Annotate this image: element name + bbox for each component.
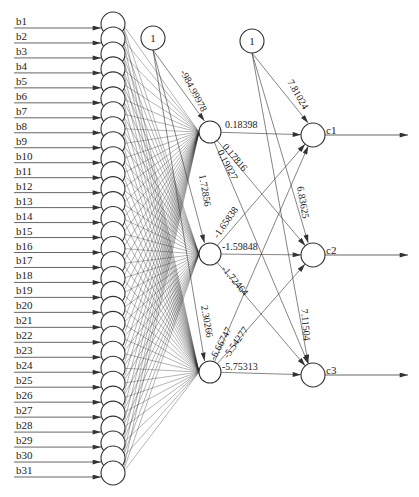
output-label-c3: c3 bbox=[326, 364, 337, 376]
output-label-c1: c1 bbox=[326, 124, 336, 136]
edge-b9-h1 bbox=[123, 132, 199, 144]
weight-label-bias-hidden-to-h2: 1.72856 bbox=[197, 173, 213, 207]
edge-b3-h1 bbox=[123, 54, 199, 132]
weight-label-h2-to-c3: -1.72464 bbox=[219, 263, 250, 298]
input-label-b26: b26 bbox=[16, 389, 33, 401]
hidden-node-h1 bbox=[199, 121, 221, 143]
input-layer: b1b2b3b4b5b6b7b8b9b10b11b12b13b14b15b16b… bbox=[14, 15, 101, 477]
input-label-b1: b1 bbox=[16, 15, 27, 27]
input-label-b14: b14 bbox=[16, 210, 33, 222]
input-label-b18: b18 bbox=[16, 269, 33, 281]
input-node-b31 bbox=[101, 461, 125, 485]
input-label-b22: b22 bbox=[16, 329, 33, 341]
edge-h1-c1 bbox=[221, 132, 301, 134]
input-label-b23: b23 bbox=[16, 344, 33, 356]
edge-b16-h2 bbox=[123, 249, 199, 255]
input-label-b11: b11 bbox=[16, 165, 32, 177]
input-label-b20: b20 bbox=[16, 299, 33, 311]
input-label-b6: b6 bbox=[16, 90, 28, 102]
input-label-b16: b16 bbox=[16, 240, 33, 252]
input-label-b25: b25 bbox=[16, 374, 33, 386]
weight-label-h2-to-c1: -1.65838 bbox=[211, 204, 241, 240]
weight-label-h1-to-c1: 0.18398 bbox=[225, 119, 258, 130]
input-label-b31: b31 bbox=[16, 464, 33, 476]
output-node-c3 bbox=[301, 363, 325, 387]
nodes: 11c1c2c3 bbox=[101, 12, 337, 485]
edge-bias-output-c2 bbox=[252, 53, 308, 243]
input-label-b5: b5 bbox=[16, 75, 28, 87]
input-label-b8: b8 bbox=[16, 120, 28, 132]
output-node-c2 bbox=[301, 243, 325, 267]
input-label-b9: b9 bbox=[16, 135, 28, 147]
input-label-b2: b2 bbox=[16, 30, 27, 42]
neural-network-diagram: b1b2b3b4b5b6b7b8b9b10b11b12b13b14b15b16b… bbox=[0, 0, 419, 497]
input-label-b28: b28 bbox=[16, 419, 33, 431]
bias-output-label: 1 bbox=[249, 35, 255, 47]
hidden-node-h3 bbox=[199, 361, 221, 383]
input-label-b3: b3 bbox=[16, 45, 28, 57]
input-label-b19: b19 bbox=[16, 284, 33, 296]
weight-label-h2-to-c2: -1.59848 bbox=[222, 241, 258, 252]
output-node-c1 bbox=[301, 123, 325, 147]
input-label-b21: b21 bbox=[16, 314, 33, 326]
edge-b25-h3 bbox=[123, 372, 199, 383]
edge-b16-h3 bbox=[123, 249, 199, 373]
input-label-b24: b24 bbox=[16, 359, 33, 371]
weight-label-bias-output-to-c1: 7.81024 bbox=[285, 78, 311, 112]
weight-label-h3-to-c3: -5.75313 bbox=[222, 361, 258, 372]
edge-h3-c3 bbox=[221, 372, 301, 374]
input-hidden-connections bbox=[123, 24, 199, 473]
input-label-b7: b7 bbox=[16, 105, 28, 117]
input-label-b15: b15 bbox=[16, 225, 33, 237]
edge-b29-h3 bbox=[123, 372, 199, 443]
output-label-c2: c2 bbox=[326, 244, 336, 256]
edge-b10-h1 bbox=[123, 132, 199, 159]
edge-b5-h1 bbox=[123, 84, 199, 132]
hidden-output-connections bbox=[153, 50, 408, 375]
weight-label-bias-hidden-to-h3: 2.30266 bbox=[199, 304, 215, 338]
input-label-b17: b17 bbox=[16, 254, 33, 266]
weight-label-bias-output-to-c2: 6.83625 bbox=[295, 185, 311, 219]
input-label-b29: b29 bbox=[16, 434, 33, 446]
edge-b22-h3 bbox=[123, 338, 199, 372]
edge-b28-h3 bbox=[123, 372, 199, 428]
input-label-b13: b13 bbox=[16, 195, 33, 207]
input-label-b12: b12 bbox=[16, 180, 33, 192]
input-label-b4: b4 bbox=[16, 60, 28, 72]
edge-b27-h3 bbox=[123, 372, 199, 413]
weight-label-bias-output-to-c3: 7.11504 bbox=[299, 308, 313, 341]
input-label-b27: b27 bbox=[16, 404, 33, 416]
hidden-node-h2 bbox=[199, 243, 221, 265]
input-label-b30: b30 bbox=[16, 449, 33, 461]
edge-b10-h2 bbox=[123, 159, 199, 254]
edge-b27-h1 bbox=[123, 132, 199, 413]
input-label-b10: b10 bbox=[16, 150, 33, 162]
edge-b31-h1 bbox=[123, 132, 199, 473]
bias-hidden-label: 1 bbox=[150, 32, 156, 44]
